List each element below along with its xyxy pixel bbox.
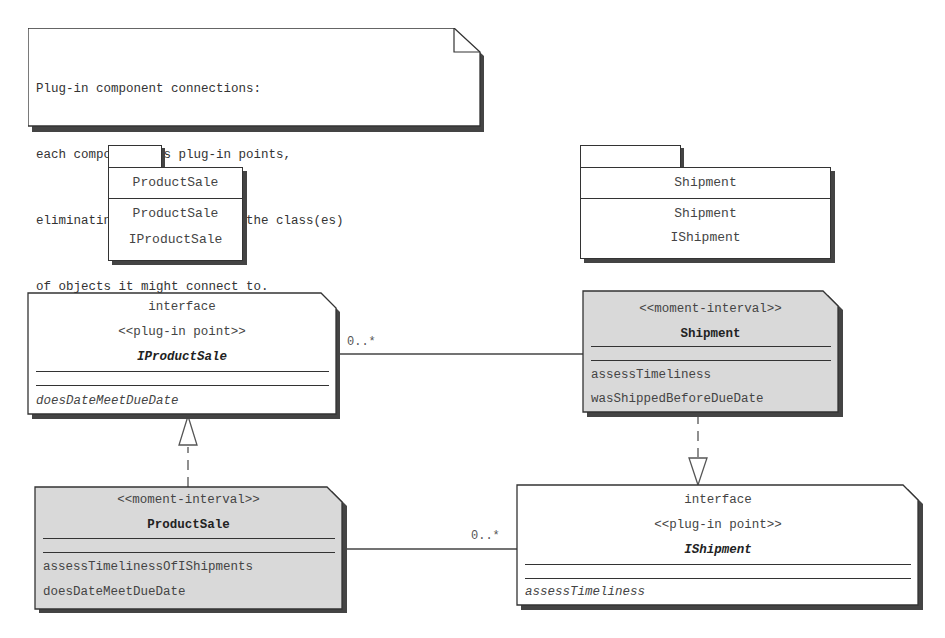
class-name: Shipment bbox=[583, 327, 838, 341]
operation: assessTimelinessOfIShipments bbox=[43, 560, 253, 574]
class-name: ProductSale bbox=[35, 518, 342, 532]
package-item: ProductSale bbox=[109, 206, 242, 221]
class-keyword: interface bbox=[28, 300, 336, 314]
package-item: IProductSale bbox=[109, 232, 242, 247]
package-tab bbox=[580, 145, 681, 169]
class-stereotype: <<plug-in point>> bbox=[28, 325, 336, 339]
package-item: IShipment bbox=[581, 230, 830, 245]
operation: assessTimeliness bbox=[525, 585, 645, 599]
operation-divider bbox=[591, 360, 831, 361]
attribute-divider bbox=[43, 538, 335, 539]
package-divider bbox=[109, 198, 242, 199]
class-stereotype: <<plug-in point>> bbox=[517, 518, 919, 532]
note-line: each component has plug-in points, bbox=[36, 144, 344, 166]
realization-arrowhead-iproductsale bbox=[179, 416, 197, 445]
class-shipment[interactable]: <<moment-interval>> Shipment assessTimel… bbox=[583, 291, 838, 413]
note-box: Plug-in component connections: each comp… bbox=[28, 28, 476, 124]
operation: doesDateMeetDueDate bbox=[43, 585, 186, 599]
class-ishipment[interactable]: interface <<plug-in point>> IShipment as… bbox=[517, 485, 919, 606]
operation: doesDateMeetDueDate bbox=[36, 394, 179, 408]
package-item: Shipment bbox=[581, 206, 830, 221]
multiplicity-label-shipment: 0..* bbox=[347, 335, 376, 349]
package-divider bbox=[581, 198, 830, 199]
attribute-divider bbox=[36, 371, 329, 372]
package-body: ProductSale ProductSale IProductSale bbox=[108, 167, 243, 261]
note-line: Plug-in component connections: bbox=[36, 78, 344, 100]
attribute-divider bbox=[525, 564, 911, 565]
operation: wasShippedBeforeDueDate bbox=[591, 392, 764, 406]
class-stereotype: <<moment-interval>> bbox=[583, 302, 838, 316]
class-stereotype: <<moment-interval>> bbox=[35, 493, 342, 507]
operation-divider bbox=[43, 552, 335, 553]
package-body: Shipment Shipment IShipment bbox=[580, 167, 831, 259]
class-name: IShipment bbox=[517, 543, 919, 557]
operation-divider bbox=[36, 385, 329, 386]
class-iproductsale[interactable]: interface <<plug-in point>> IProductSale… bbox=[28, 293, 336, 415]
attribute-divider bbox=[591, 346, 831, 347]
realization-arrowhead-ishipment bbox=[689, 458, 707, 485]
operation: assessTimeliness bbox=[591, 368, 711, 382]
operation-divider bbox=[525, 578, 911, 579]
multiplicity-label-ishipment: 0..* bbox=[471, 529, 500, 543]
package-title: ProductSale bbox=[109, 175, 242, 190]
class-name: IProductSale bbox=[28, 350, 336, 364]
class-productsale[interactable]: <<moment-interval>> ProductSale assessTi… bbox=[35, 487, 342, 609]
class-keyword: interface bbox=[517, 493, 919, 507]
package-tab bbox=[108, 145, 162, 169]
package-title: Shipment bbox=[581, 175, 830, 190]
